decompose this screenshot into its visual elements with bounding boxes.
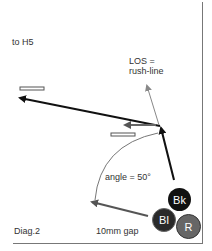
ball-blue: Bl [152, 208, 176, 232]
label-gap: 10mm gap [96, 227, 139, 236]
arrow-bk-up [161, 128, 174, 180]
label-los-line2: rush-line [129, 66, 164, 76]
ball-blue-label: Bl [159, 214, 169, 226]
angle-arc [95, 133, 158, 200]
label-los-line1: LOS = [129, 56, 164, 66]
label-los: LOS = rush-line [129, 56, 164, 76]
label-angle: angle = 50° [105, 173, 151, 182]
ball-red-label: R [185, 221, 193, 233]
label-diagram-number: Diag.2 [14, 227, 40, 236]
ball-black: Bk [168, 188, 191, 211]
arrow-los [147, 86, 159, 125]
ball-red: R [176, 214, 201, 239]
marker-bar-left [20, 87, 44, 90]
marker-bar-center [111, 133, 135, 136]
arrow-to-h5 [20, 98, 160, 126]
arrow-bl-left [92, 202, 148, 216]
ball-black-label: Bk [173, 194, 186, 206]
label-to-h5: to H5 [12, 38, 34, 47]
